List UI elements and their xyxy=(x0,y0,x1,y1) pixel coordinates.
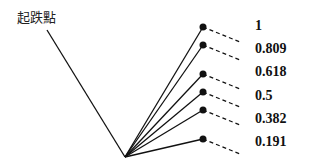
start-point-label: 起跌點 xyxy=(17,7,56,26)
level-label: 1 xyxy=(255,18,262,34)
level-dot xyxy=(200,89,207,96)
dashed-projection-line xyxy=(203,45,240,60)
level-dot xyxy=(200,24,207,31)
level-label: 0.809 xyxy=(255,41,287,57)
level-dot xyxy=(200,136,207,143)
fan-line xyxy=(125,74,203,157)
level-label: 0.618 xyxy=(255,64,287,80)
fan-line xyxy=(125,110,203,157)
level-label: 0.5 xyxy=(255,88,273,104)
level-dot xyxy=(200,71,207,78)
level-dot xyxy=(200,42,207,49)
level-dot xyxy=(200,107,207,114)
level-label: 0.191 xyxy=(255,134,287,150)
dashed-projection-line xyxy=(203,110,240,125)
decline-line xyxy=(47,30,125,157)
dashed-projection-line xyxy=(203,139,240,154)
fan-line xyxy=(125,27,203,157)
dashed-projection-line xyxy=(203,27,240,42)
dashed-projection-line xyxy=(203,92,240,107)
level-label: 0.382 xyxy=(255,111,287,127)
dashed-projection-line xyxy=(203,74,240,89)
